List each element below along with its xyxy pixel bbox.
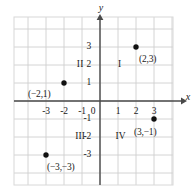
point-neg2-1-label: (−2,1): [28, 90, 50, 100]
x-tick-label-3: 3: [152, 107, 157, 117]
y-axis-label: y: [99, 3, 103, 13]
y-tick-label-3: 3: [86, 42, 91, 52]
quadrant-1: I: [118, 60, 121, 70]
y-tick-label-neg1: -1: [83, 114, 91, 124]
point-neg2-1[interactable]: [61, 80, 66, 85]
y-tick-label-neg3: -3: [83, 150, 91, 160]
y-tick-label-2: 2: [86, 60, 91, 70]
coordinate-plane-figure: -3-2-10123321-1-2-3xyIIIIIIIV(2,3)(−2,1)…: [0, 0, 194, 194]
x-tick-label-neg3: -3: [42, 107, 50, 117]
x-tick-label-neg2: -2: [60, 107, 68, 117]
point-2-3-label: (2,3): [139, 55, 156, 65]
quadrant-4: IV: [115, 132, 125, 142]
point-3-neg1-label: (3,−1): [134, 128, 156, 138]
x-axis-label: x: [186, 92, 190, 102]
quadrant-3: III: [75, 132, 85, 142]
x-tick-label-1: 1: [116, 107, 121, 117]
x-tick-label-2: 2: [134, 107, 139, 117]
point-neg3-neg3[interactable]: [43, 152, 48, 157]
point-3-neg1[interactable]: [151, 116, 156, 121]
y-tick-label-1: 1: [86, 78, 91, 88]
point-neg3-neg3-label: (−3,−3): [47, 163, 75, 173]
point-2-3[interactable]: [133, 44, 138, 49]
quadrant-2: II: [77, 60, 84, 70]
